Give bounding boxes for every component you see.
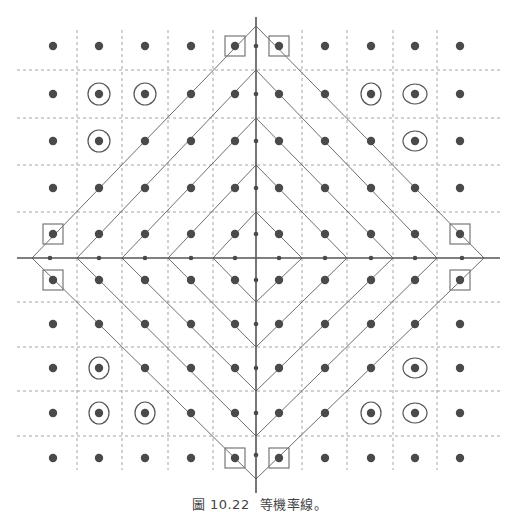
lattice-dot bbox=[187, 320, 195, 328]
axis-dot bbox=[254, 366, 259, 371]
lattice-dot bbox=[411, 276, 419, 284]
lattice-dot bbox=[49, 230, 57, 238]
figure-label: 圖 10.22 bbox=[192, 497, 250, 512]
lattice-dot bbox=[141, 454, 149, 462]
lattice-dot bbox=[321, 184, 329, 192]
lattice-dot bbox=[187, 137, 195, 145]
lattice-dot bbox=[49, 276, 57, 284]
lattice-dot bbox=[275, 230, 283, 238]
lattice-dot bbox=[187, 90, 195, 98]
equiprobability-diagram bbox=[0, 0, 519, 524]
axis-dot bbox=[189, 256, 194, 261]
lattice-dot bbox=[367, 137, 375, 145]
lattice-dot bbox=[95, 320, 103, 328]
lattice-dot bbox=[321, 454, 329, 462]
lattice-dot bbox=[367, 230, 375, 238]
lattice-dot bbox=[321, 42, 329, 50]
lattice-dot bbox=[321, 320, 329, 328]
axis-dot bbox=[254, 411, 259, 416]
lattice-dot bbox=[456, 276, 464, 284]
lattice-dot bbox=[187, 276, 195, 284]
lattice-dot bbox=[456, 409, 464, 417]
lattice-dot bbox=[95, 454, 103, 462]
figure-caption: 圖 10.22等機率線。 bbox=[0, 494, 519, 513]
lattice-dot bbox=[456, 184, 464, 192]
equiprobability-diamond bbox=[213, 212, 302, 302]
lattice-dot bbox=[141, 137, 149, 145]
lattice-dot bbox=[95, 409, 103, 417]
lattice-dot bbox=[95, 184, 103, 192]
lattice-dot bbox=[275, 137, 283, 145]
lattice-dot bbox=[275, 184, 283, 192]
lattice-dot bbox=[49, 409, 57, 417]
lattice-dot bbox=[141, 90, 149, 98]
lattice-dot bbox=[275, 454, 283, 462]
lattice-dot bbox=[456, 42, 464, 50]
lattice-dot bbox=[231, 137, 239, 145]
lattice-dot bbox=[411, 42, 419, 50]
equiprobability-diamond bbox=[77, 70, 437, 436]
lattice-dot bbox=[231, 42, 239, 50]
axis-dot bbox=[277, 256, 282, 261]
lattice-dot bbox=[49, 364, 57, 372]
axis-dot bbox=[254, 278, 259, 283]
lattice-dot bbox=[321, 230, 329, 238]
lattice-dot bbox=[411, 320, 419, 328]
lattice-dot bbox=[231, 184, 239, 192]
lattice-dot bbox=[141, 42, 149, 50]
dashed-grid bbox=[17, 30, 500, 470]
lattice-dot bbox=[456, 320, 464, 328]
lattice-dot bbox=[275, 409, 283, 417]
lattice-dot bbox=[49, 184, 57, 192]
axis-dot bbox=[460, 256, 465, 261]
lattice-dot bbox=[456, 90, 464, 98]
lattice-dot bbox=[275, 320, 283, 328]
axis-dot bbox=[254, 44, 259, 49]
lattice-dot bbox=[411, 90, 419, 98]
lattice-dot bbox=[95, 42, 103, 50]
lattice-dot bbox=[367, 276, 375, 284]
lattice-dot bbox=[367, 409, 375, 417]
lattice-dot bbox=[411, 454, 419, 462]
lattice-dot bbox=[49, 42, 57, 50]
axis-dot bbox=[143, 256, 148, 261]
lattice-dot bbox=[275, 90, 283, 98]
lattice-dot bbox=[231, 409, 239, 417]
axis-dot bbox=[254, 186, 259, 191]
lattice-dot bbox=[231, 276, 239, 284]
lattice-dot bbox=[231, 230, 239, 238]
axis-dot bbox=[48, 256, 53, 261]
axis-dot bbox=[254, 92, 259, 97]
lattice-dot bbox=[187, 230, 195, 238]
lattice-dot bbox=[411, 364, 419, 372]
lattice-dot bbox=[49, 320, 57, 328]
lattice-dot bbox=[231, 320, 239, 328]
axis-dot bbox=[369, 256, 374, 261]
lattice-dot bbox=[49, 454, 57, 462]
lattice-dot bbox=[187, 42, 195, 50]
lattice-dot bbox=[411, 409, 419, 417]
axis-dot bbox=[233, 256, 238, 261]
lattice-dot bbox=[231, 364, 239, 372]
lattice-dot bbox=[367, 42, 375, 50]
lattice-dot bbox=[275, 364, 283, 372]
lattice-dot bbox=[367, 184, 375, 192]
axis-dot bbox=[323, 256, 328, 261]
lattice-dot bbox=[187, 364, 195, 372]
lattice-dot bbox=[141, 184, 149, 192]
lattice-dot bbox=[456, 364, 464, 372]
lattice-dot bbox=[411, 137, 419, 145]
axis-dot bbox=[413, 256, 418, 261]
lattice-dot bbox=[95, 364, 103, 372]
axis-dot bbox=[254, 139, 259, 144]
lattice-dot bbox=[187, 454, 195, 462]
axis-dot bbox=[97, 256, 102, 261]
lattice-dot bbox=[231, 90, 239, 98]
axis-dot bbox=[254, 232, 259, 237]
axis-dot bbox=[254, 322, 259, 327]
lattice-dot bbox=[321, 409, 329, 417]
lattice-dot bbox=[367, 364, 375, 372]
lattice-dot bbox=[321, 90, 329, 98]
equiprobability-diamond bbox=[168, 165, 347, 347]
lattice-dot bbox=[456, 137, 464, 145]
